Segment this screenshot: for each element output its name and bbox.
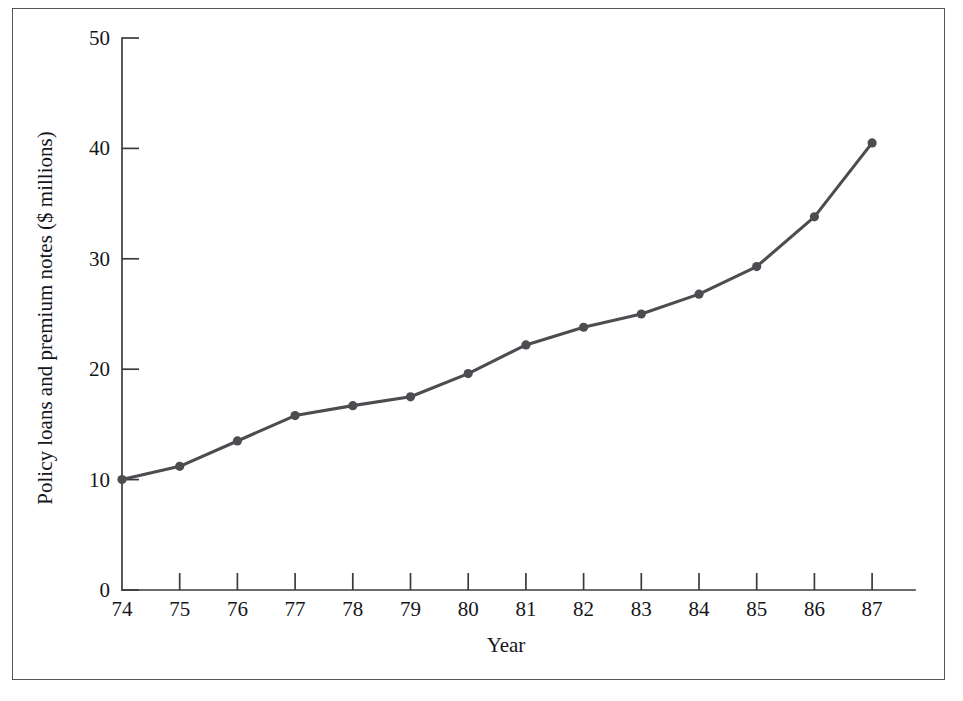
data-point-marker: [868, 138, 877, 147]
data-point-marker: [521, 340, 530, 349]
x-tick-label: 74: [112, 597, 134, 621]
x-tick-label: 78: [342, 597, 363, 621]
chart-page: 01020304050 7475767778798081828384858687…: [0, 0, 963, 701]
y-tick-label: 20: [89, 357, 110, 381]
y-axis-ticks: [122, 38, 139, 590]
x-axis-ticks: [180, 573, 872, 590]
y-tick-label: 0: [100, 578, 111, 602]
x-axis-tick-labels: 7475767778798081828384858687: [112, 597, 883, 621]
x-tick-label: 76: [227, 597, 248, 621]
line-chart-plot: 01020304050 7475767778798081828384858687…: [0, 0, 963, 701]
data-point-marker: [464, 369, 473, 378]
data-point-marker: [117, 475, 126, 484]
data-point-marker: [579, 323, 588, 332]
data-point-marker: [233, 436, 242, 445]
y-tick-label: 10: [89, 468, 110, 492]
x-tick-label: 79: [400, 597, 421, 621]
data-point-marker: [694, 290, 703, 299]
x-tick-label: 80: [458, 597, 479, 621]
x-tick-label: 83: [631, 597, 652, 621]
data-point-marker: [348, 401, 357, 410]
y-axis-tick-labels: 01020304050: [89, 26, 110, 602]
x-tick-label: 85: [746, 597, 767, 621]
x-tick-label: 86: [804, 597, 825, 621]
y-tick-label: 50: [89, 26, 110, 50]
y-tick-label: 30: [89, 247, 110, 271]
x-tick-label: 84: [689, 597, 711, 621]
x-tick-label: 82: [573, 597, 594, 621]
x-tick-label: 87: [862, 597, 883, 621]
data-point-marker: [175, 462, 184, 471]
y-tick-label: 40: [89, 136, 110, 160]
x-axis-title: Year: [487, 633, 526, 657]
data-point-marker: [291, 411, 300, 420]
data-point-marker: [752, 262, 761, 271]
x-tick-label: 81: [515, 597, 536, 621]
data-point-marker: [406, 392, 415, 401]
data-point-marker: [637, 309, 646, 318]
data-point-markers: [117, 138, 876, 484]
data-series-line: [122, 143, 872, 480]
x-tick-label: 77: [285, 597, 306, 621]
x-tick-label: 75: [169, 597, 190, 621]
data-point-marker: [810, 212, 819, 221]
y-axis-title: Policy loans and premium notes ($ millio…: [33, 131, 57, 504]
